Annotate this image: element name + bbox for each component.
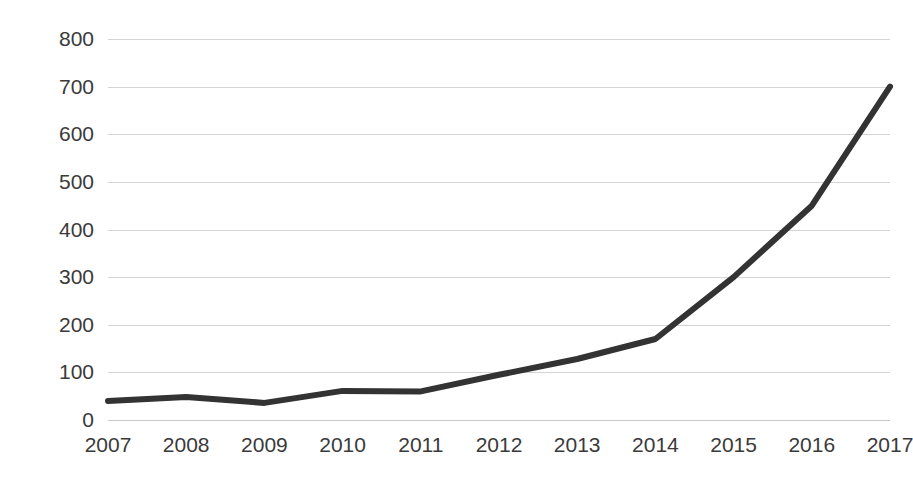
x-tick-label: 2008 (163, 434, 210, 455)
x-tick-label: 2016 (788, 434, 835, 455)
x-tick-label: 2010 (319, 434, 366, 455)
series-1-line (108, 87, 890, 403)
x-tick-label: 2015 (710, 434, 757, 455)
x-tick-label: 2013 (554, 434, 601, 455)
x-tick-label: 2009 (241, 434, 288, 455)
x-tick-label: 2011 (398, 434, 443, 455)
x-tick-label: 2014 (632, 434, 679, 455)
x-tick-label: 2012 (476, 434, 523, 455)
x-tick-label: 2017 (867, 434, 913, 455)
x-tick-label: 2007 (85, 434, 132, 455)
x-axis: 2007200820092010201120122013201420152016… (108, 434, 890, 464)
